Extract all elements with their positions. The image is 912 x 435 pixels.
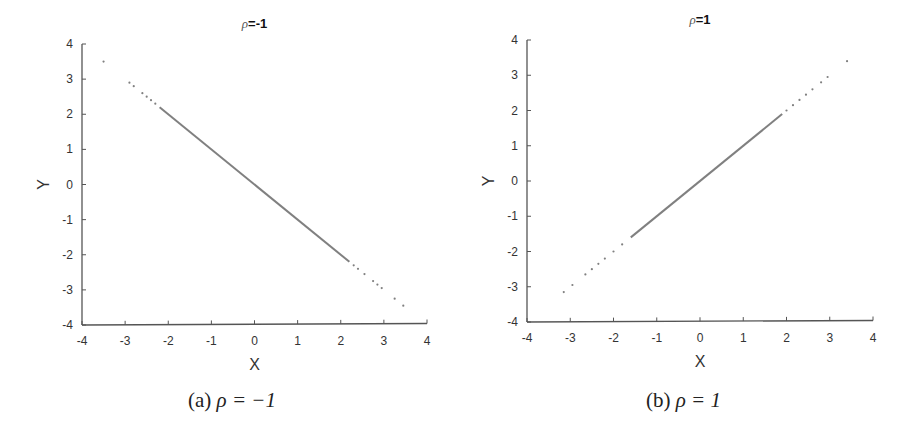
- data-point: [820, 81, 822, 83]
- y-tick-label: 4: [511, 33, 518, 47]
- y-axis-label: Y: [35, 179, 52, 190]
- y-tick-label: 1: [511, 139, 518, 153]
- chart-panel-a: -4-3-2-10123443210-1-2-3-4XYρ=-1 (a) ρ =…: [0, 0, 456, 435]
- data-point: [591, 268, 593, 270]
- data-point: [376, 284, 378, 286]
- y-tick-label: 1: [66, 142, 73, 156]
- data-point: [394, 298, 396, 300]
- data-point: [584, 273, 586, 275]
- y-tick-label: 3: [511, 68, 518, 82]
- caption-a: (a) ρ = −1: [188, 388, 276, 413]
- data-line: [160, 107, 350, 262]
- x-tick-label: 4: [424, 334, 431, 348]
- y-tick-label: 2: [66, 107, 73, 121]
- y-tick-label: -3: [507, 280, 518, 294]
- data-point: [353, 264, 355, 266]
- data-point: [141, 92, 143, 94]
- x-tick-label: -2: [608, 331, 619, 345]
- data-line: [631, 114, 782, 237]
- x-tick-label: 1: [740, 331, 747, 345]
- x-tick-label: 3: [381, 334, 388, 348]
- y-tick-label: -1: [62, 213, 73, 227]
- y-tick-label: 3: [66, 72, 73, 86]
- title-value: =-1: [248, 16, 267, 31]
- data-point: [372, 280, 374, 282]
- y-tick-label: -4: [507, 315, 518, 329]
- x-tick-label: -3: [565, 331, 576, 345]
- y-tick-label: 0: [66, 178, 73, 192]
- y-tick-label: 0: [511, 174, 518, 188]
- data-point: [102, 60, 104, 62]
- x-tick-label: -4: [522, 331, 533, 345]
- x-tick-label: 0: [251, 334, 258, 348]
- data-point: [811, 88, 813, 90]
- y-tick-label: 4: [66, 37, 73, 51]
- x-tick-label: -3: [120, 334, 131, 348]
- caption-math: ρ = −1: [217, 388, 276, 412]
- caption-label: (b): [646, 388, 671, 412]
- x-tick-label: 2: [783, 331, 790, 345]
- chart-title: ρ=-1: [241, 16, 267, 31]
- data-point: [402, 305, 404, 307]
- data-point: [146, 96, 148, 98]
- data-point: [563, 291, 565, 293]
- data-point: [785, 109, 787, 111]
- caption-label: (a): [188, 388, 211, 412]
- data-point: [805, 94, 807, 96]
- caption-b: (b) ρ = 1: [646, 388, 721, 413]
- y-tick-label: 2: [511, 104, 518, 118]
- data-point: [571, 284, 573, 286]
- scatter-plot-rho-neg1: -4-3-2-10123443210-1-2-3-4XYρ=-1: [0, 0, 456, 380]
- caption-math: ρ = 1: [676, 388, 721, 412]
- x-tick-label: -1: [206, 334, 217, 348]
- x-tick-label: -2: [163, 334, 174, 348]
- data-point: [798, 99, 800, 101]
- title-rho-symbol: ρ: [688, 12, 695, 27]
- x-tick-label: 3: [826, 331, 833, 345]
- x-tick-label: 2: [337, 334, 344, 348]
- x-tick-label: -4: [77, 334, 88, 348]
- y-tick-label: -3: [62, 283, 73, 297]
- x-tick-label: -1: [651, 331, 662, 345]
- data-point: [846, 60, 848, 62]
- data-point: [826, 76, 828, 78]
- x-axis-label: X: [249, 356, 260, 373]
- data-point: [597, 263, 599, 265]
- y-tick-label: -1: [507, 209, 518, 223]
- data-point: [604, 257, 606, 259]
- data-point: [154, 103, 156, 105]
- x-tick-label: 4: [870, 331, 877, 345]
- y-tick-label: -2: [507, 245, 518, 259]
- data-point: [357, 268, 359, 270]
- data-point: [792, 104, 794, 106]
- chart-panel-b: -4-3-2-10123443210-1-2-3-4XYρ=1 (b) ρ = …: [456, 0, 912, 435]
- chart-title: ρ=1: [688, 12, 710, 27]
- x-axis-label: X: [695, 353, 706, 370]
- x-tick-label: 0: [697, 331, 704, 345]
- x-tick-label: 1: [294, 334, 301, 348]
- data-point: [381, 287, 383, 289]
- scatter-plot-rho-pos1: -4-3-2-10123443210-1-2-3-4XYρ=1: [456, 0, 912, 380]
- y-axis-label: Y: [480, 175, 497, 186]
- y-tick-label: -4: [62, 318, 73, 332]
- data-point: [133, 85, 135, 87]
- data-point: [363, 273, 365, 275]
- data-point: [150, 99, 152, 101]
- title-rho-symbol: ρ: [241, 16, 248, 31]
- data-point: [621, 243, 623, 245]
- title-value: =1: [696, 12, 711, 27]
- data-point: [128, 82, 130, 84]
- y-tick-label: -2: [62, 248, 73, 262]
- data-point: [612, 250, 614, 252]
